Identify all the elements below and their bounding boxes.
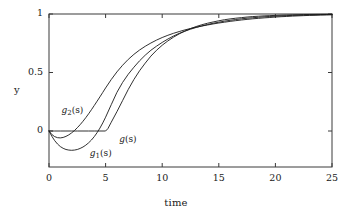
x-tick-label: 25 — [317, 172, 347, 183]
curve-label-arg: (s) — [125, 134, 137, 144]
y-tick-label: 0 — [13, 124, 43, 135]
curve-gs — [49, 14, 332, 131]
frame-rect — [49, 14, 332, 167]
y-tick-label: 1 — [13, 7, 43, 18]
x-tick-label: 5 — [91, 172, 121, 183]
curve-g1s — [49, 14, 332, 150]
curve-label-subscript: 1 — [96, 152, 100, 160]
x-tick-label: 20 — [260, 172, 290, 183]
curve-g2s — [49, 15, 332, 138]
x-tick-label: 0 — [34, 172, 64, 183]
curve-label-arg: (s) — [100, 148, 112, 158]
y-axis-label: y — [14, 84, 20, 95]
curve-label-g1: g1(s) — [90, 148, 112, 158]
axis-ticks — [49, 14, 332, 167]
plot-frame — [49, 14, 332, 167]
curve-label-g2: g2(s) — [62, 105, 84, 115]
curve-label-g: g(s) — [119, 134, 136, 144]
curve-label-arg: (s) — [72, 105, 84, 115]
curve-label-base: g — [90, 148, 96, 158]
chart-canvas — [0, 0, 352, 223]
x-tick-label: 15 — [204, 172, 234, 183]
x-tick-label: 10 — [147, 172, 177, 183]
data-curves — [49, 14, 332, 150]
x-axis-label: time — [0, 197, 352, 208]
y-tick-label: 0.5 — [13, 66, 43, 77]
curve-label-subscript: 2 — [67, 109, 71, 117]
figure: y time 0510152025 00.51 g2(s)g1(s)g(s) — [0, 0, 352, 223]
